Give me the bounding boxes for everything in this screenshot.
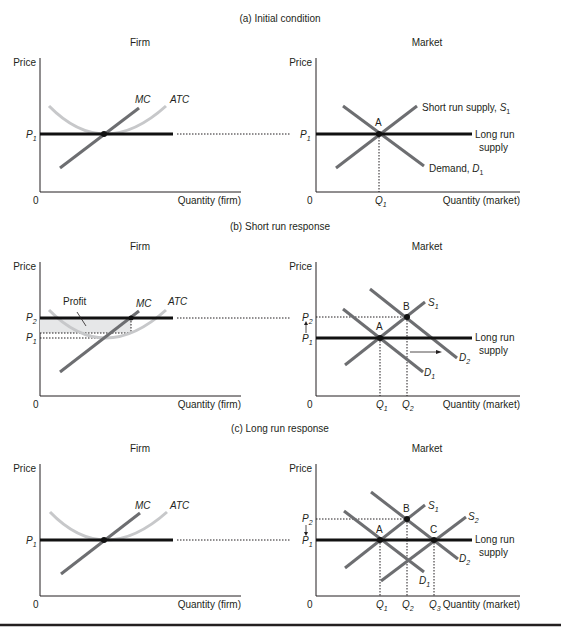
panel-c-title: (c) Long run response: [231, 423, 329, 434]
point-a-label: A: [376, 524, 383, 535]
profit-max-point: [129, 316, 134, 321]
x-axis-label: Quantity (market): [443, 399, 520, 410]
profit-label: Profit: [63, 296, 87, 307]
origin-label: 0: [307, 599, 313, 610]
p1-label: P1: [300, 129, 311, 142]
q1-label: Q1: [375, 195, 387, 208]
origin-label: 0: [307, 399, 313, 410]
s1-label: S1: [428, 297, 439, 310]
point-b-label: B: [403, 301, 410, 312]
origin-label: 0: [33, 599, 39, 610]
panel-b-title: (b) Short run response: [230, 221, 330, 232]
x-axis-label: Quantity (firm): [178, 399, 241, 410]
x-axis-label: Quantity (market): [443, 195, 520, 206]
arrow-right-icon: [436, 350, 442, 354]
p2-label: P2: [302, 312, 313, 325]
s1-label: Short run supply, S1: [422, 102, 510, 115]
panel-a-firm-graph: Firm Price 0 Quantity (firm) P1 MC ATC: [13, 37, 290, 206]
origin-label: 0: [33, 399, 39, 410]
point-b: [404, 516, 410, 522]
p1-label: P1: [26, 129, 37, 142]
lr-supply-label-2: supply: [479, 142, 508, 153]
panel-b-market-graph: Market Price 0 Quantity (market) P2 P1 Q…: [289, 241, 520, 412]
d2-label: D2: [459, 553, 470, 566]
point-b: [404, 314, 410, 320]
s2-label: S2: [468, 511, 479, 524]
mc-label: MC: [135, 94, 151, 105]
market-title: Market: [412, 37, 443, 48]
y-axis-label: Price: [13, 57, 36, 68]
mc-curve: [61, 513, 140, 574]
atc-label: ATC: [169, 94, 190, 105]
atc-label: ATC: [167, 296, 188, 307]
equilibrium-point: [101, 131, 107, 137]
x-axis-label: Quantity (firm): [178, 599, 241, 610]
firm-title: Firm: [130, 37, 150, 48]
origin-label: 0: [33, 195, 39, 206]
panel-a-title: (a) Initial condition: [239, 13, 320, 24]
x-axis-label: Quantity (market): [443, 599, 520, 610]
equilibrium-point: [101, 537, 107, 543]
d1-label: Demand, D1: [429, 163, 484, 176]
p1-label: P1: [26, 535, 37, 548]
d1-label: D1: [424, 367, 435, 380]
demand-d1: [343, 309, 423, 372]
x-axis-label: Quantity (firm): [178, 195, 241, 206]
demand-d1: [343, 106, 424, 166]
supply-s1: [345, 302, 425, 365]
q1-label: Q1: [376, 399, 388, 412]
point-c-label: C: [430, 524, 437, 535]
point-c: [431, 537, 437, 543]
mc-label: MC: [135, 500, 151, 511]
panel-a-market-graph: Market Price 0 Quantity (market) P1 Q1 A…: [289, 37, 520, 208]
origin-label: 0: [307, 195, 313, 206]
panel-b: (b) Short run response Firm Price 0 Quan…: [13, 221, 520, 412]
y-axis-label: Price: [289, 261, 312, 272]
p2-label: P2: [26, 312, 37, 325]
lr-supply-label-2: supply: [479, 547, 508, 558]
lr-supply-label-2: supply: [479, 345, 508, 356]
y-axis-label: Price: [13, 463, 36, 474]
lr-supply-label-1: Long run: [475, 332, 514, 343]
axes: [316, 262, 520, 396]
panel-b-firm-graph: Firm Price 0 Quantity (firm) P2 P1 Profi…: [13, 241, 290, 410]
lr-supply-label-1: Long run: [475, 129, 514, 140]
panel-c-firm-graph: Firm Price 0 Quantity (firm) P1 MC ATC: [13, 443, 290, 610]
y-axis-label: Price: [289, 57, 312, 68]
short-run-supply-s1: [336, 106, 417, 168]
p1-label: P1: [302, 535, 313, 548]
point-a-label: A: [376, 321, 383, 332]
market-title: Market: [412, 443, 443, 454]
atc-curve: [49, 106, 166, 134]
panel-a: (a) Initial condition Firm Price 0 Quant…: [13, 13, 520, 208]
point-a: [377, 335, 383, 341]
y-axis-label: Price: [13, 261, 36, 272]
point-a: [377, 537, 383, 543]
firm-title: Firm: [130, 443, 150, 454]
p1-label: P1: [302, 333, 313, 346]
q3-label: Q3: [429, 599, 441, 612]
perfect-competition-diagram: (a) Initial condition Firm Price 0 Quant…: [0, 0, 561, 631]
demand-d2: [371, 492, 458, 559]
d1-label: D1: [419, 575, 430, 588]
point-a-label: A: [375, 117, 382, 128]
y-axis-label: Price: [289, 463, 312, 474]
p1-label: P1: [26, 332, 37, 345]
p2-label: P2: [302, 513, 313, 526]
panel-c-market-graph: Market Price 0 Quantity (market) P2 P1 Q…: [289, 443, 520, 612]
q2-label: Q2: [402, 399, 414, 412]
d2-label: D2: [459, 352, 470, 365]
s1-label: S1: [428, 500, 439, 513]
q2-label: Q2: [402, 599, 414, 612]
panel-c: (c) Long run response Firm Price 0 Quant…: [13, 423, 520, 612]
market-title: Market: [412, 241, 443, 252]
q1-label: Q1: [376, 599, 388, 612]
mc-curve: [60, 108, 139, 168]
point-a: [376, 131, 382, 137]
firm-title: Firm: [130, 241, 150, 252]
mc-label: MC: [136, 298, 152, 309]
point-b-label: B: [403, 503, 410, 514]
demand-d2: [370, 289, 457, 358]
atc-label: ATC: [169, 500, 190, 511]
lr-supply-label-1: Long run: [475, 534, 514, 545]
